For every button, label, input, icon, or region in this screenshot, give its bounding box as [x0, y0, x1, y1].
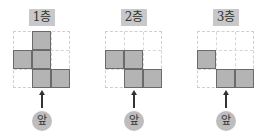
- floor-grid: [105, 31, 162, 88]
- floor-label: 3층: [213, 9, 239, 26]
- filled-cell: [32, 50, 51, 69]
- filled-cell: [124, 69, 143, 88]
- arrow-shaft: [225, 93, 227, 108]
- arrow-shaft: [41, 93, 43, 108]
- filled-cell: [51, 69, 70, 88]
- filled-cell: [32, 69, 51, 88]
- floor-label: 1층: [29, 9, 55, 26]
- front-marker: 앞: [32, 111, 52, 131]
- arrow-shaft: [133, 93, 135, 108]
- filled-cell: [235, 69, 254, 88]
- filled-cell: [105, 50, 124, 69]
- filled-cell: [124, 50, 143, 69]
- floor-label: 2층: [121, 9, 147, 26]
- filled-cell: [13, 50, 32, 69]
- floor-grid: [197, 31, 254, 88]
- floor-grid: [13, 31, 70, 88]
- filled-cell: [32, 31, 51, 50]
- filled-cell: [216, 69, 235, 88]
- front-marker: 앞: [216, 111, 236, 131]
- front-marker: 앞: [124, 111, 144, 131]
- filled-cell: [143, 69, 162, 88]
- filled-cell: [197, 50, 216, 69]
